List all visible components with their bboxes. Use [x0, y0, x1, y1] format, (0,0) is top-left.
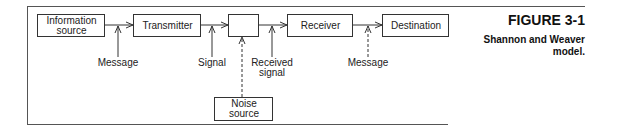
channel-box: [229, 15, 259, 37]
noise-source-label: Noise source: [215, 99, 273, 119]
message-label-1: Message: [88, 58, 148, 68]
destination-label: Destination: [383, 21, 449, 31]
noise-source-line2: source: [215, 109, 273, 119]
transmitter-label: Transmitter: [134, 21, 201, 31]
receiver-label: Receiver: [288, 21, 353, 31]
figure-number: FIGURE 3-1: [508, 12, 585, 28]
message-label-2: Message: [338, 58, 398, 68]
information-source-label: Information source: [38, 16, 105, 36]
received-signal-label: Received signal: [244, 58, 300, 78]
received-signal-line2: signal: [244, 68, 300, 78]
information-source-line2: source: [38, 26, 105, 36]
signal-label: Signal: [187, 58, 237, 68]
figure-caption: Shannon and Weaver model.: [465, 34, 585, 58]
